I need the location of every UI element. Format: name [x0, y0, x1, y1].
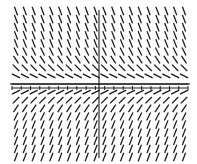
slope-segment: [40, 105, 45, 113]
slope-segment: [182, 48, 186, 56]
slope-segment: [112, 31, 115, 39]
slope-segment: [32, 48, 36, 56]
slope-segment: [138, 145, 141, 153]
slope-segment: [127, 90, 135, 94]
slope-segment: [120, 56, 125, 64]
slope-segment: [75, 56, 80, 64]
slope-segment: [67, 128, 70, 136]
slope-segment: [31, 56, 36, 64]
slope-segment: [118, 90, 126, 94]
slope-segment: [50, 7, 53, 15]
slope-segment: [76, 153, 79, 161]
slope-segment: [138, 7, 141, 15]
slope-segment: [181, 97, 187, 103]
slope-segment: [59, 31, 62, 39]
slope-segment: [23, 137, 26, 145]
slope-segment: [103, 145, 106, 153]
slope-segment: [23, 128, 26, 136]
slope-segment: [112, 145, 115, 153]
slope-segment: [23, 120, 26, 128]
slope-segment: [156, 153, 159, 161]
slope-segment: [32, 7, 35, 15]
slope-segment: [154, 97, 160, 103]
slope-segment: [165, 137, 168, 145]
slope-segment: [129, 7, 132, 15]
slope-segment: [41, 120, 44, 128]
slope-segment: [92, 65, 98, 71]
slope-segment: [182, 7, 185, 15]
slope-segment: [76, 137, 79, 145]
slope-segment: [67, 137, 70, 145]
slope-segment: [147, 15, 150, 23]
slope-segment: [49, 48, 53, 56]
slope-segment: [109, 90, 117, 94]
slope-segment: [174, 7, 177, 15]
slope-segment: [92, 90, 100, 94]
slope-segment: [75, 105, 80, 113]
slope-segment: [41, 128, 44, 136]
slope-segment: [138, 128, 141, 136]
slope-segment: [76, 7, 79, 15]
slope-segment: [112, 23, 115, 31]
slope-segment: [165, 31, 168, 39]
slope-segment: [146, 56, 151, 64]
slope-segment: [67, 48, 71, 56]
slope-segment: [14, 48, 18, 56]
slope-segment: [127, 74, 135, 78]
slope-segment: [153, 74, 161, 78]
slope-segment: [32, 31, 35, 39]
slope-segment: [112, 128, 115, 136]
slope-segment: [84, 65, 90, 71]
slope-segment: [74, 90, 82, 94]
slope-segment: [138, 112, 142, 120]
slope-segment: [137, 56, 142, 64]
slope-segment: [67, 15, 70, 23]
slope-segment: [59, 128, 62, 136]
slope-segment: [67, 112, 71, 120]
slope-segment: [94, 120, 97, 128]
slope-segment: [162, 90, 170, 94]
slope-segment: [32, 128, 35, 136]
slope-segment: [164, 56, 169, 64]
slope-segment: [85, 31, 88, 39]
slope-segment: [137, 97, 143, 103]
slope-segment: [100, 90, 108, 94]
slope-segment: [147, 153, 150, 161]
slope-segment: [181, 65, 187, 71]
slope-segment: [156, 145, 159, 153]
slope-segment: [172, 97, 178, 103]
slope-segment: [137, 65, 143, 71]
slope-segment: [129, 48, 133, 56]
slope-segment: [129, 39, 132, 47]
slope-segment: [165, 120, 168, 128]
slope-segment: [85, 112, 89, 120]
slope-segment: [50, 23, 53, 31]
slope-segment: [102, 48, 106, 56]
slope-segment: [94, 31, 97, 39]
slope-segment: [164, 105, 169, 113]
slope-segment: [155, 105, 160, 113]
slope-segment: [103, 31, 106, 39]
slope-segment: [165, 145, 168, 153]
slope-segment: [41, 23, 44, 31]
slope-segment: [100, 74, 108, 78]
slope-segment: [41, 137, 44, 145]
slope-segment: [165, 15, 168, 23]
slope-segment: [83, 90, 91, 94]
slope-segment: [129, 153, 132, 161]
slope-segment: [85, 23, 88, 31]
slope-segment: [180, 90, 188, 94]
slope-segment: [85, 128, 88, 136]
slope-segment: [174, 153, 177, 161]
slope-segment: [13, 97, 19, 103]
slope-segment: [138, 23, 141, 31]
slope-segment: [50, 120, 53, 128]
slope-segment: [76, 120, 79, 128]
slope-segment: [50, 145, 53, 153]
slope-segment: [138, 31, 141, 39]
slope-segment: [145, 65, 151, 71]
slope-segment: [156, 7, 159, 15]
slope-segment: [65, 90, 73, 94]
slope-segment: [162, 74, 170, 78]
slope-segment: [129, 128, 132, 136]
